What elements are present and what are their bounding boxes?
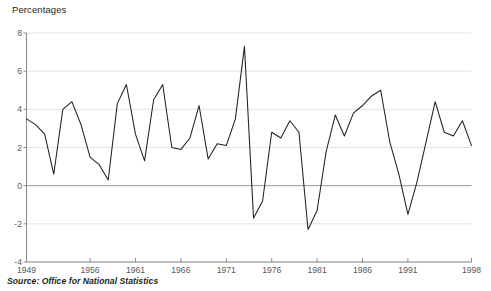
x-tick-label: 1991 (388, 265, 428, 275)
x-tick-label: 1961 (115, 265, 155, 275)
source-note: Source: Office for National Statistics (7, 276, 158, 286)
x-tick-label: 1998 (452, 265, 491, 275)
x-tick-label: 1976 (252, 265, 292, 275)
y-tick-label: 6 (0, 66, 22, 76)
y-tick-label: 8 (0, 28, 22, 38)
x-tick-label: 1971 (206, 265, 246, 275)
x-tick-label: 1986 (343, 265, 383, 275)
line-chart-plot (0, 0, 491, 291)
x-tick-label: 1981 (297, 265, 337, 275)
x-tick-label: 1966 (161, 265, 201, 275)
gridlines-group (27, 33, 472, 262)
y-tick-label: 0 (0, 181, 22, 191)
x-tick-label: 1949 (7, 265, 47, 275)
chart-figure: Percentages -4-202468 194919561961196619… (0, 0, 491, 291)
y-tick-label: 4 (0, 104, 22, 114)
y-tick-label: 2 (0, 143, 22, 153)
x-tick-label: 1956 (70, 265, 110, 275)
data-series-line (27, 46, 472, 229)
y-tick-label: -2 (0, 219, 22, 229)
